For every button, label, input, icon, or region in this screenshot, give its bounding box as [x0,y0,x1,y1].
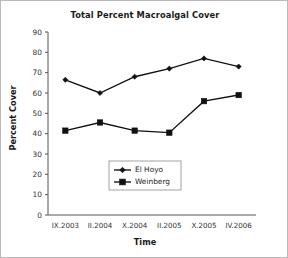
data-point-marker [63,77,68,82]
chart-figure: Total Percent Macroalgal Cover Percent C… [0,0,288,258]
x-tick-group: IX.2003II.2004X.2004II.2005X.2005IV.2006 [52,221,253,230]
series-weinberg [63,92,242,135]
series-group [63,56,242,136]
data-point-marker [97,120,102,125]
data-point-marker [132,128,137,133]
data-point-marker [132,74,137,79]
data-point-marker [167,66,172,71]
y-tick-label: 60 [33,89,43,98]
series-el-hoyo [63,56,242,96]
y-tick-label: 0 [37,211,42,220]
chart-legend: El HoyoWeinberg [109,161,181,190]
y-tick-label: 90 [33,28,43,37]
y-tick-label: 70 [33,68,43,77]
data-point-marker [236,92,241,97]
x-tick-label: IV.2006 [225,221,252,230]
y-tick-label: 10 [33,190,43,199]
data-point-marker [63,128,68,133]
data-point-marker [97,90,102,95]
y-tick-label: 20 [33,170,43,179]
y-tick-label: 50 [33,109,43,118]
data-point-marker [167,130,172,135]
x-tick-label: X.2004 [122,221,148,230]
series-line [65,95,238,133]
x-tick-label: X.2005 [191,221,216,230]
y-tick-label: 40 [33,129,43,138]
y-tick-label: 80 [33,48,43,57]
legend-label: Weinberg [135,177,170,186]
plot-area: 0102030405060708090 IX.2003II.2004X.2004… [1,1,288,258]
data-point-marker [201,98,206,103]
y-tick-group: 0102030405060708090 [33,28,48,220]
legend-label: El Hoyo [135,165,164,174]
x-tick-label: IX.2003 [52,221,79,230]
data-point-marker [236,64,241,69]
y-tick-label: 30 [33,150,43,159]
x-tick-label: II.2004 [88,221,113,230]
x-tick-label: II.2005 [157,221,182,230]
series-line [65,58,238,93]
legend-sample-marker [120,179,126,185]
data-point-marker [201,56,206,61]
